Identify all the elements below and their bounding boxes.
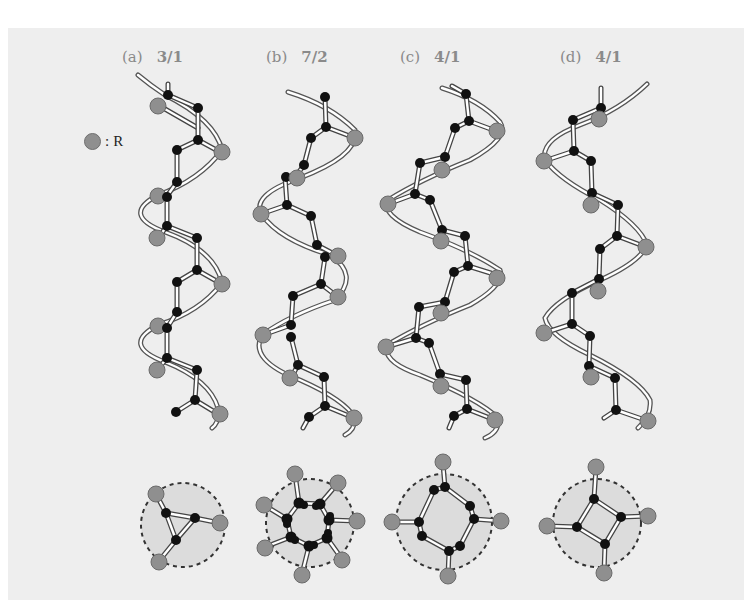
projection-b <box>256 466 365 583</box>
projection-a <box>141 483 228 570</box>
projection-d <box>539 459 656 581</box>
helix-d <box>536 84 656 429</box>
helix-b <box>253 92 363 435</box>
helix-diagram: .rib-o { fill: none; stroke: #555; strok… <box>0 0 744 611</box>
helix-a <box>138 75 230 428</box>
projection-c <box>384 454 509 584</box>
helix-c <box>378 86 505 438</box>
